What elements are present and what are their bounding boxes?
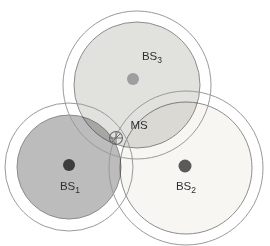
bs3-antenna-dot: [127, 73, 139, 85]
bs2-label-main: BS: [176, 180, 192, 192]
bs1-label-main: BS: [60, 180, 76, 192]
bs2-label-subscript: 2: [191, 185, 196, 195]
ms-marker: [109, 131, 123, 145]
bs1-antenna-dot: [63, 159, 75, 171]
bs2-antenna-dot: [179, 160, 192, 173]
bs3-label-subscript: 3: [157, 55, 162, 65]
cellular-handoff-diagram: BS3 BS1 BS2 MS: [0, 0, 270, 246]
ms-label: MS: [130, 119, 148, 131]
bs3-label-main: BS: [142, 50, 158, 62]
bs1-label-subscript: 1: [75, 185, 80, 195]
